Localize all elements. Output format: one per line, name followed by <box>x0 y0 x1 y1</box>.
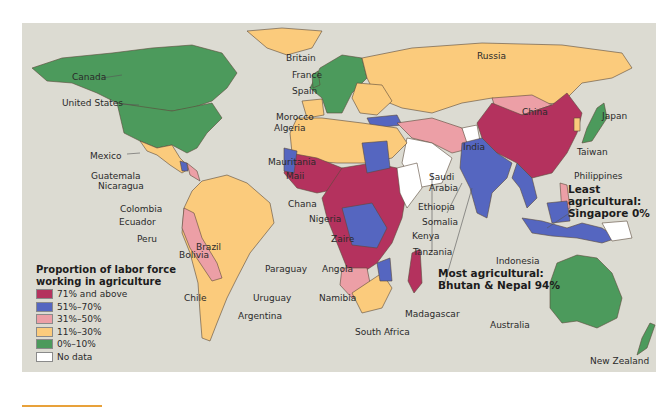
label-russia: Russia <box>477 51 506 62</box>
region-australia <box>550 255 622 328</box>
swatch-icon <box>36 289 53 299</box>
label-taiwan: Taiwan <box>577 147 608 158</box>
label-saudi: Saudi <box>429 172 454 183</box>
label-madagascar: Madagascar <box>405 309 460 320</box>
annotation-most-agricultural: Most agricultural: Bhutan & Nepal 94% <box>438 267 560 291</box>
label-paraguay: Paraguay <box>265 264 307 275</box>
legend-item-51-70: 51%–70% <box>36 301 176 314</box>
label-france: France <box>292 70 322 81</box>
label-ghana: Chana <box>288 199 317 210</box>
label-argentina: Argentina <box>238 311 282 322</box>
label-namibia: Namibia <box>319 293 356 304</box>
label-chile: Chile <box>184 293 207 304</box>
label-philippines: Philippines <box>574 171 623 182</box>
annotation-least-line1: Least <box>568 183 650 195</box>
label-ethiopia: Ethiopia <box>418 202 455 213</box>
label-morocco: Morocco <box>276 112 314 123</box>
label-new-zealand: New Zealand <box>590 356 649 367</box>
legend-label: No data <box>57 352 92 362</box>
label-australia: Australia <box>490 320 530 331</box>
label-mauritania: Mauritania <box>268 157 316 168</box>
label-japan: Japan <box>602 111 627 122</box>
legend-title-line1: Proportion of labor force <box>36 264 176 276</box>
label-uruguay: Uruguay <box>253 293 291 304</box>
legend-item-0-10: 0%–10% <box>36 338 176 351</box>
region-central-america-pink <box>187 163 200 181</box>
swatch-icon <box>36 302 53 312</box>
label-nicaragua: Nicaragua <box>98 181 144 192</box>
annotation-least-line3: Singapore 0% <box>568 207 650 219</box>
swatch-icon <box>36 314 53 324</box>
region-borneo <box>547 201 570 223</box>
swatch-icon <box>36 327 53 337</box>
label-mali: Maii <box>286 171 304 182</box>
swatch-icon <box>36 339 53 349</box>
annotation-most-line2: Bhutan & Nepal 94% <box>438 279 560 291</box>
annotation-least-line2: agricultural: <box>568 195 650 207</box>
annotation-least-agricultural: Least agricultural: Singapore 0% <box>568 183 650 219</box>
swatch-icon <box>36 352 53 362</box>
label-britain: Britain <box>286 53 316 64</box>
region-greenland <box>247 28 322 55</box>
label-nigeria: Nigeria <box>309 214 341 225</box>
region-new-zealand <box>637 323 655 355</box>
legend-label: 11%–30% <box>57 327 102 337</box>
legend-item-11-30: 11%–30% <box>36 326 176 339</box>
region-mozambique-blue <box>377 258 392 281</box>
label-indonesia: Indonesia <box>496 256 540 267</box>
label-south-africa: South Africa <box>355 327 410 338</box>
label-bolivia: Bolivia <box>179 250 209 261</box>
label-united-states: United States <box>62 98 123 109</box>
label-canada: Canada <box>72 72 106 83</box>
label-kenya: Kenya <box>412 231 440 242</box>
map-legend: Proportion of labor force working in agr… <box>36 264 176 363</box>
label-angola: Angola <box>322 264 353 275</box>
annotation-most-line1: Most agricultural: <box>438 267 560 279</box>
region-sudan-blue <box>362 141 390 173</box>
legend-title-line2: working in agriculture <box>36 276 176 288</box>
label-zaire: Zaire <box>331 234 354 245</box>
legend-label: 31%–50% <box>57 314 102 324</box>
label-arabia: Arabia <box>429 183 458 194</box>
label-mexico: Mexico <box>90 151 121 162</box>
legend-item-71-plus: 71% and above <box>36 288 176 301</box>
label-colombia: Colombia <box>120 204 162 215</box>
legend-item-31-50: 31%–50% <box>36 313 176 326</box>
label-india: India <box>463 142 485 153</box>
region-korea <box>574 118 580 131</box>
label-tanzania: Tanzania <box>413 247 452 258</box>
label-somalia: Somalia <box>422 217 458 228</box>
label-algeria: Algeria <box>274 123 306 134</box>
legend-label: 71% and above <box>57 289 127 299</box>
label-spain: Spain <box>292 86 317 97</box>
label-china: China <box>522 107 548 118</box>
region-indonesia <box>522 218 617 243</box>
world-map: Canada United States Mexico Guatemala Ni… <box>22 23 656 372</box>
legend-item-no-data: No data <box>36 351 176 364</box>
region-japan <box>582 103 607 143</box>
label-ecuador: Ecuador <box>119 217 156 228</box>
legend-label: 0%–10% <box>57 339 96 349</box>
legend-label: 51%–70% <box>57 302 102 312</box>
label-peru: Peru <box>137 234 157 245</box>
